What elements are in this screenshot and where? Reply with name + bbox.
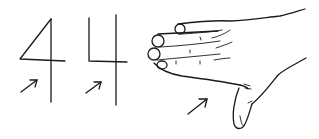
arrow-icon: [21, 80, 37, 92]
arrow-icon: [86, 82, 101, 93]
illustration: Hand-drawn sketches: an open-style digit…: [0, 0, 319, 139]
hand-four-gesture: [148, 9, 306, 129]
digit-four-triangular: [20, 19, 65, 102]
digit-four-squared: [89, 15, 127, 105]
arrow-icon: [188, 99, 207, 114]
